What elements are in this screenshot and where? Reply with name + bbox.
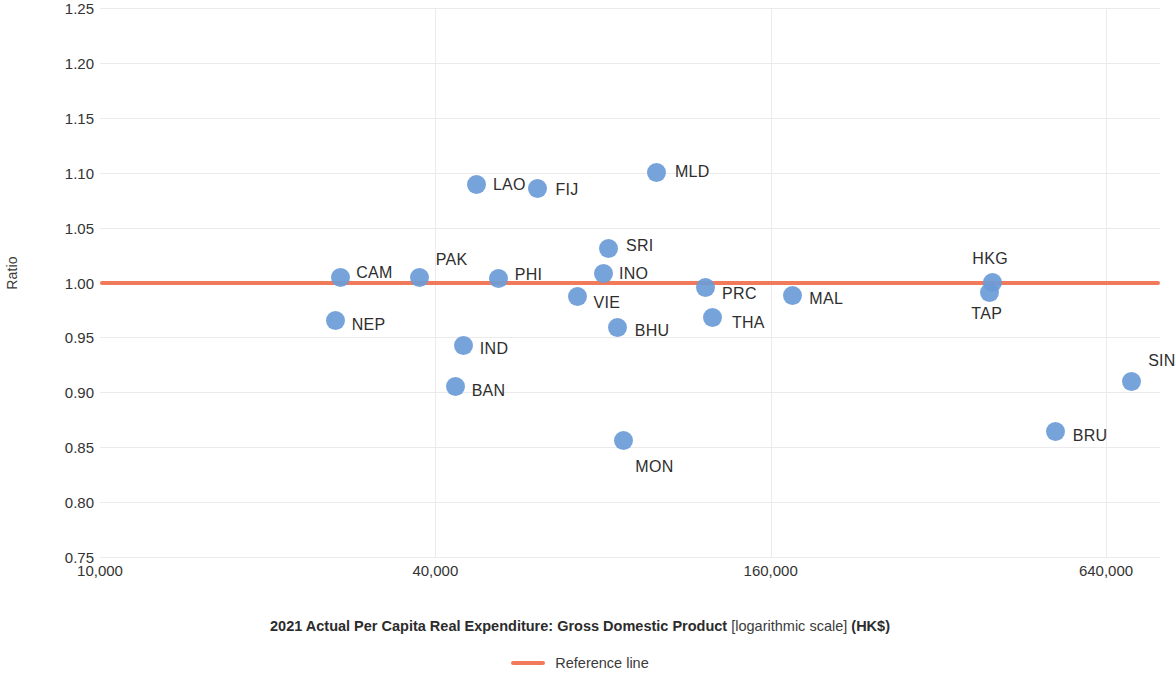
y-axis-tick-1-00: 1.00 (36, 276, 94, 291)
data-point-mld[interactable] (647, 163, 666, 182)
data-point-sri[interactable] (599, 239, 618, 258)
y-axis-tick-1-20: 1.20 (36, 56, 94, 71)
reference-line-swatch-icon (511, 661, 545, 665)
data-point-ind[interactable] (454, 336, 473, 355)
y-axis-title: Ratio (4, 243, 20, 303)
data-point-label-lao: LAO (493, 177, 526, 193)
data-point-label-ban: BAN (472, 383, 506, 399)
y-axis-tick-1-05: 1.05 (36, 221, 94, 236)
data-point-nep[interactable] (326, 311, 345, 330)
data-points-layer: NEPCAMPAKBANINDLAOPHIFIJVIEINOSRIBHUMONM… (100, 8, 1160, 557)
gridline-horizontal (100, 557, 1160, 558)
data-point-ino[interactable] (594, 264, 613, 283)
x-axis-title-unit: (HK$) (851, 618, 890, 634)
x-axis-title-scale-note: [logarithmic scale] (727, 618, 851, 634)
data-point-label-ino: INO (619, 266, 648, 282)
legend-item-reference-line[interactable]: Reference line (555, 655, 649, 671)
data-point-prc[interactable] (696, 278, 715, 297)
data-point-label-sin: SIN (1148, 353, 1176, 369)
data-point-bru[interactable] (1046, 422, 1065, 441)
x-axis-tick-40000: 40,000 (375, 563, 495, 578)
data-point-label-pak: PAK (436, 252, 468, 268)
y-axis-tick-1-10: 1.10 (36, 166, 94, 181)
data-point-label-sri: SRI (626, 238, 654, 254)
x-axis-title-main: 2021 Actual Per Capita Real Expenditure:… (270, 618, 727, 634)
data-point-pak[interactable] (410, 268, 429, 287)
data-point-label-mon: MON (635, 459, 673, 475)
data-point-label-bru: BRU (1073, 428, 1108, 444)
data-point-label-bhu: BHU (635, 323, 670, 339)
y-axis-tick-0-85: 0.85 (36, 440, 94, 455)
x-axis-tick-640000: 640,000 (1046, 563, 1166, 578)
data-point-label-mld: MLD (675, 164, 710, 180)
data-point-label-tha: THA (732, 315, 765, 331)
data-point-label-phi: PHI (515, 267, 543, 283)
data-point-ban[interactable] (446, 377, 465, 396)
x-axis-tick-160000: 160,000 (711, 563, 831, 578)
legend: Reference line (0, 655, 1160, 671)
data-point-cam[interactable] (331, 268, 350, 287)
data-point-tha[interactable] (703, 308, 722, 327)
plot-area: NEPCAMPAKBANINDLAOPHIFIJVIEINOSRIBHUMONM… (100, 8, 1160, 557)
data-point-label-tap: TAP (971, 306, 1002, 322)
data-point-label-fij: FIJ (555, 182, 578, 198)
data-point-sin[interactable] (1122, 372, 1141, 391)
data-point-label-prc: PRC (722, 286, 757, 302)
data-point-mal[interactable] (783, 286, 802, 305)
y-axis-tick-0-95: 0.95 (36, 330, 94, 345)
x-axis-title: 2021 Actual Per Capita Real Expenditure:… (0, 618, 1160, 634)
data-point-label-vie: VIE (594, 295, 621, 311)
data-point-fij[interactable] (528, 179, 547, 198)
data-point-tap[interactable] (980, 283, 999, 302)
data-point-phi[interactable] (489, 269, 508, 288)
y-axis-tick-0-90: 0.90 (36, 385, 94, 400)
data-point-label-ind: IND (480, 341, 508, 357)
data-point-mon[interactable] (614, 431, 633, 450)
y-axis-tick-0-80: 0.80 (36, 495, 94, 510)
x-axis-tick-10000: 10,000 (40, 563, 160, 578)
data-point-label-cam: CAM (356, 265, 392, 281)
y-axis-tick-1-25: 1.25 (36, 1, 94, 16)
data-point-label-nep: NEP (352, 317, 386, 333)
data-point-lao[interactable] (467, 175, 486, 194)
data-point-label-mal: MAL (809, 291, 843, 307)
data-point-vie[interactable] (568, 287, 587, 306)
data-point-bhu[interactable] (608, 318, 627, 337)
y-axis-tick-1-15: 1.15 (36, 111, 94, 126)
data-point-label-hkg: HKG (972, 251, 1008, 267)
